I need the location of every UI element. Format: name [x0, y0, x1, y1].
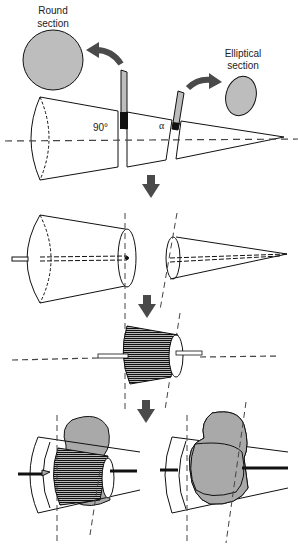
step-4-left-mounted	[18, 415, 140, 543]
cone-sectioning-diagram: Round section Elliptical section 90°	[0, 0, 298, 547]
down-arrow-icon	[138, 295, 156, 318]
step-4-right-mounted	[160, 402, 288, 543]
down-arrow-icon	[142, 175, 160, 198]
arrowhead-icon	[209, 73, 222, 89]
cone-left-piece	[31, 97, 118, 180]
cone-right-piece	[176, 121, 284, 159]
down-arrow-icon	[137, 400, 155, 423]
step-3-wrapped-frustum	[12, 313, 280, 410]
axis-line	[5, 139, 298, 141]
elliptical-section-label-1: Elliptical	[225, 48, 262, 59]
curved-arrow-icon	[96, 50, 121, 64]
elliptical-section-label-2: section	[227, 60, 259, 71]
elliptical-section-disk	[221, 73, 260, 119]
slice-edge	[172, 122, 180, 130]
angle-alpha-label: α	[159, 120, 165, 131]
round-section-disk	[23, 30, 83, 90]
round-section-label-1: Round	[38, 5, 67, 16]
step-1-cutting: Round section Elliptical section 90°	[5, 5, 298, 180]
curved-arrow-icon	[188, 80, 212, 88]
arrowhead-icon	[86, 42, 99, 58]
round-section-label-2: section	[37, 18, 69, 29]
angle-90-label: 90°	[93, 122, 108, 133]
